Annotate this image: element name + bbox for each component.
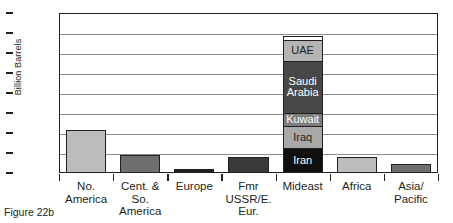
figure-22b: Billion Barrels 010020030040050060070080… <box>0 0 453 223</box>
x-axis-tick-mark <box>59 174 60 181</box>
figure-caption: Figure 22b <box>4 206 54 218</box>
y-axis-tick-mark <box>6 72 13 73</box>
gridline <box>60 114 437 115</box>
x-axis-tick-mark <box>384 174 385 181</box>
y-axis-tick-mark <box>6 112 13 113</box>
gridline <box>60 134 437 135</box>
y-axis-tick-mark <box>6 32 13 33</box>
gridline <box>60 94 437 95</box>
x-axis-tick-mark <box>438 174 439 181</box>
stack-segment-label: Iran <box>293 155 312 166</box>
y-axis-tick-mark <box>6 152 13 153</box>
y-axis-tick-mark <box>6 12 13 13</box>
x-axis-label: Europe <box>167 180 221 193</box>
y-axis-title: Billion Barrels <box>13 22 23 112</box>
x-axis-label: Asia/ Pacific <box>384 180 438 205</box>
stacked-bar-mideast[interactable]: UAESaudi ArabiaKuwaitIraqIran <box>283 36 323 173</box>
y-axis-tick-mark <box>6 92 13 93</box>
stack-segment-iraq[interactable]: Iraq <box>284 127 322 150</box>
x-axis-tick-mark <box>276 174 277 181</box>
x-axis-label: Cent. & So. America <box>113 180 167 218</box>
stack-segment-kuwait[interactable]: Kuwait <box>284 114 322 127</box>
plot-area <box>59 13 438 173</box>
gridline <box>60 154 437 155</box>
gridline <box>60 54 437 55</box>
bar-no-america[interactable] <box>66 130 106 173</box>
bar-europe[interactable] <box>174 169 214 173</box>
bar-africa[interactable] <box>337 157 377 173</box>
y-axis-tick-mark <box>6 172 13 173</box>
x-axis-label: No. America <box>59 180 113 205</box>
x-axis-label: Fmr USSR/E. Eur. <box>221 180 275 218</box>
x-axis-label: Mideast <box>276 180 330 193</box>
stack-segment-uae[interactable]: UAE <box>284 41 322 62</box>
bar-asia-pacific[interactable] <box>391 164 431 173</box>
gridline <box>60 74 437 75</box>
gridline <box>60 34 437 35</box>
y-axis-tick-mark <box>6 132 13 133</box>
x-axis-tick-mark <box>221 174 222 181</box>
stack-segment-label: Iraq <box>293 132 312 143</box>
stack-segment-saudi-arabia[interactable]: Saudi Arabia <box>284 62 322 114</box>
x-axis-label: Africa <box>330 180 384 193</box>
stack-segment-iran[interactable]: Iran <box>284 149 322 172</box>
x-axis-tick-mark <box>330 174 331 181</box>
stack-segment-label: Kuwait <box>286 114 319 125</box>
y-axis-tick-mark <box>6 52 13 53</box>
stack-segment-label: UAE <box>291 45 314 56</box>
bar-cent-so-america[interactable] <box>120 155 160 173</box>
bar-fmr-ussr-e-eur[interactable] <box>228 157 268 173</box>
x-axis-tick-mark <box>113 174 114 181</box>
x-axis-tick-mark <box>167 174 168 181</box>
stack-segment-label: Saudi Arabia <box>287 76 319 99</box>
